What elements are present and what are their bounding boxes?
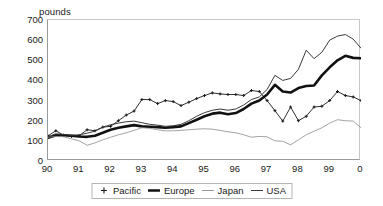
y-tick-400: 400 (19, 74, 43, 85)
series-line-japan (48, 120, 361, 146)
legend-label-pacific: Pacific (113, 185, 141, 196)
x-tick-90: 90 (42, 163, 53, 174)
plot-area (47, 19, 360, 160)
y-tick-300: 300 (19, 94, 43, 105)
y-tick-700: 700 (19, 14, 43, 25)
x-tick-91: 91 (73, 163, 84, 174)
y-axis-tick-labels: 0100200300400500600700 (17, 19, 43, 160)
x-tick-96: 96 (230, 163, 241, 174)
x-tick-94: 94 (167, 163, 178, 174)
x-tick-95: 95 (198, 163, 209, 174)
chart-legend: PacificEuropeJapanUSA (91, 183, 292, 199)
legend-label-usa: USA (266, 185, 286, 196)
legend-item-japan[interactable]: Japan (202, 185, 244, 196)
legend-swatch-europe-icon (148, 186, 161, 195)
legend-item-pacific[interactable]: Pacific (97, 185, 141, 196)
y-axis-unit-label: pounds (39, 6, 71, 17)
y-tick-100: 100 (19, 134, 43, 145)
legend-swatch-pacific-icon (97, 186, 110, 195)
legend-label-japan: Japan (218, 185, 244, 196)
y-tick-200: 200 (19, 114, 43, 125)
series-lines (48, 20, 361, 161)
y-tick-0: 0 (19, 155, 43, 166)
chart-container: pounds 0100200300400500600700 9091929394… (0, 0, 383, 206)
x-tick-93: 93 (136, 163, 147, 174)
legend-label-europe: Europe (164, 185, 195, 196)
legend-swatch-usa-icon (250, 186, 263, 195)
series-markers-pacific (48, 89, 361, 138)
x-axis-tick-labels: 909192939495969798990 (47, 163, 360, 177)
x-tick-97: 97 (261, 163, 272, 174)
y-tick-500: 500 (19, 54, 43, 65)
x-tick-98: 98 (292, 163, 303, 174)
legend-swatch-japan-icon (202, 186, 215, 195)
x-tick-0: 0 (357, 163, 362, 174)
y-tick-600: 600 (19, 34, 43, 45)
x-tick-92: 92 (104, 163, 115, 174)
x-tick-99: 99 (323, 163, 334, 174)
legend-item-europe[interactable]: Europe (148, 185, 195, 196)
legend-item-usa[interactable]: USA (250, 185, 286, 196)
